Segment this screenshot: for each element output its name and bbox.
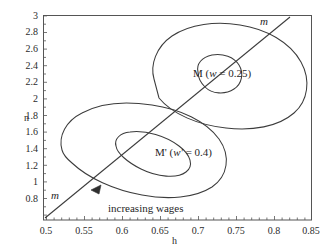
x-tick-label: 0.75 [221,226,251,236]
y-tick-label: 1.2 [12,161,38,171]
x-tick-label: 0.65 [145,226,175,236]
y-tick-label: 0.8 [12,194,38,204]
curve-label-Mprime-prefix: M' ( [155,146,173,158]
x-axis-label: h [172,236,177,246]
curve-label-M-suffix: = 0.25) [217,67,252,79]
y-axis-label: n [24,113,29,123]
line-label-m-bottom: m [51,190,59,201]
y-tick-label: 3 [12,11,38,21]
increasing-wages-annotation: increasing wages [108,203,183,214]
y-tick-label: 1.6 [12,127,38,137]
x-tick-label: 0.7 [183,226,213,236]
x-tick-label: 0.6 [107,226,137,236]
y-tick-label: 2.2 [12,77,38,87]
x-tick-label: 0.85 [296,226,326,236]
curve-label-M-variable: w [209,67,216,79]
y-tick-label: 1.4 [12,144,38,154]
y-tick-label: 2.8 [12,27,38,37]
figure-container: 3 2.8 2.6 2.4 2.2 2 1.8 1.6 1.4 1.2 1 0.… [0,0,331,251]
line-label-m-top: m [260,16,268,27]
curve-label-M-prefix: M ( [193,67,209,79]
curve-label-M: M (w = 0.25) [193,68,251,79]
curve-label-Mprime-variable: w' [173,146,183,158]
curve-label-Mprime: M' (w' = 0.4) [155,147,212,158]
y-tick-label: 1 [12,177,38,187]
plot-frame [44,16,312,221]
x-tick-label: 0.8 [259,226,289,236]
x-tick-label: 0.55 [69,226,99,236]
y-tick-label: 2.6 [12,44,38,54]
curve-label-Mprime-suffix: = 0.4) [183,146,212,158]
y-tick-label: 2.4 [12,61,38,71]
x-tick-label: 0.5 [31,226,61,236]
y-tick-label: 2 [12,94,38,104]
